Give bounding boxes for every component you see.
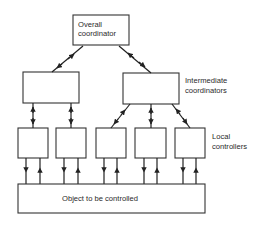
intermediate-coordinator-right bbox=[123, 73, 179, 104]
intermediate-coordinator-left bbox=[23, 72, 79, 103]
local-to-object-arrows bbox=[26, 158, 196, 184]
object-to-be-controlled-node: Object to be controlled bbox=[18, 184, 205, 213]
overall-label-line1: Overall bbox=[78, 20, 102, 29]
local-label-line2: controllers bbox=[212, 142, 247, 151]
overall-coordinator-node: Overall coordinator bbox=[73, 15, 129, 45]
overall-to-left-arrow bbox=[52, 46, 83, 72]
overall-label-line2: coordinator bbox=[78, 29, 116, 38]
intermediate-label-line1: Intermediate bbox=[185, 76, 227, 85]
right-intermediate-to-local-arrows bbox=[111, 104, 190, 128]
local-controller-1 bbox=[18, 128, 48, 158]
local-controller-5 bbox=[175, 128, 205, 158]
hierarchical-control-diagram: Overall coordinator Intermediate coordin… bbox=[0, 0, 272, 225]
local-controller-2 bbox=[56, 128, 86, 158]
intermediate-label-line2: coordinators bbox=[185, 86, 227, 95]
local-controller-3 bbox=[96, 128, 126, 158]
local-controller-4 bbox=[135, 128, 166, 158]
left-intermediate-to-local-arrows bbox=[33, 103, 71, 128]
object-label: Object to be controlled bbox=[62, 194, 138, 203]
overall-to-right-arrow bbox=[119, 46, 151, 73]
local-label-line1: Local bbox=[212, 132, 230, 141]
